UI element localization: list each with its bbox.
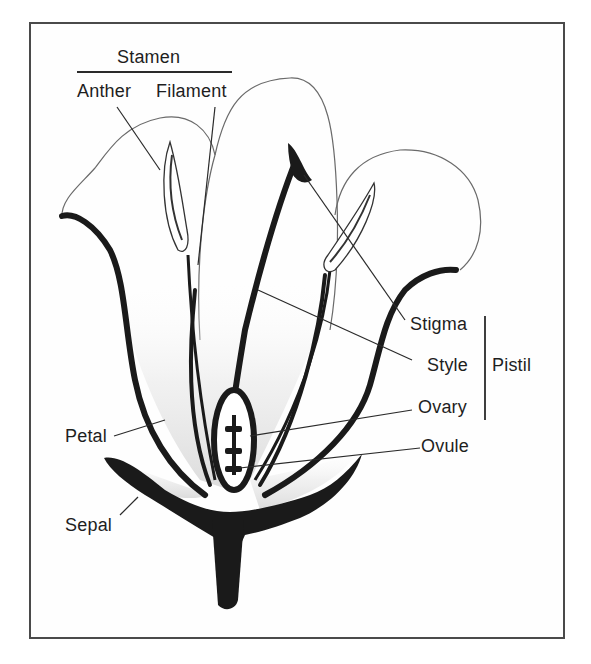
label-filament: Filament bbox=[156, 82, 227, 100]
label-ovule: Ovule bbox=[421, 437, 469, 455]
label-pistil: Pistil bbox=[492, 356, 531, 374]
label-ovary: Ovary bbox=[418, 398, 467, 416]
label-petal: Petal bbox=[65, 427, 107, 445]
label-style: Style bbox=[427, 356, 468, 374]
label-anther: Anther bbox=[77, 82, 131, 100]
label-stigma: Stigma bbox=[410, 315, 467, 333]
label-sepal: Sepal bbox=[65, 516, 112, 534]
label-stamen: Stamen bbox=[117, 48, 180, 66]
